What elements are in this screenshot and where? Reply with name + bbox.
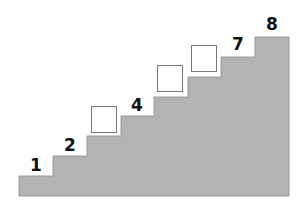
step-label-1: 1 bbox=[30, 157, 42, 174]
answer-box-5[interactable] bbox=[157, 65, 183, 92]
step-label-7: 7 bbox=[232, 36, 244, 53]
step-label-4: 4 bbox=[131, 97, 143, 114]
step-label-8: 8 bbox=[266, 16, 278, 33]
staircase bbox=[0, 0, 304, 209]
answer-box-6[interactable] bbox=[191, 45, 217, 72]
step-label-2: 2 bbox=[64, 137, 76, 154]
answer-box-3[interactable] bbox=[91, 106, 117, 133]
staircase-shape bbox=[19, 37, 289, 196]
